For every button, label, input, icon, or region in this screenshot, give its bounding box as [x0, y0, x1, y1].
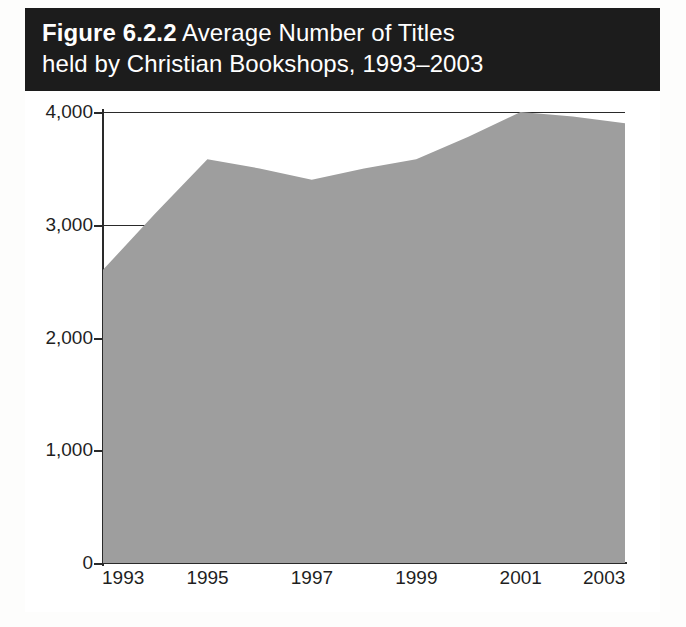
x-tick-label-2003: 2003: [583, 568, 625, 588]
figure-title-text: Average Number of Titles: [177, 19, 455, 46]
y-tick-label-4000: 4,000: [0, 102, 93, 121]
figure-title-line-1: Figure 6.2.2 Average Number of Titles: [42, 17, 660, 48]
x-tick-label-1993: 1993: [102, 568, 144, 588]
figure-container: Figure 6.2.2 Average Number of Titles he…: [0, 0, 686, 627]
x-tick-label-1997: 1997: [291, 568, 333, 588]
area-series-fill: [103, 112, 625, 563]
x-tick-label-1995: 1995: [186, 568, 228, 588]
area-chart-svg: [103, 112, 625, 563]
y-tick-label-2000: 2,000: [0, 328, 93, 347]
chart-panel: 01,0002,0003,0004,000 199319951997199920…: [25, 91, 660, 612]
figure-number-label: Figure 6.2.2: [42, 19, 177, 46]
chart-canvas: 01,0002,0003,0004,000 199319951997199920…: [25, 91, 660, 612]
y-tick-label-0: 0: [0, 553, 93, 572]
figure-title-banner: Figure 6.2.2 Average Number of Titles he…: [25, 8, 660, 91]
y-tick-label-3000: 3,000: [0, 215, 93, 234]
x-tick-label-2001: 2001: [500, 568, 542, 588]
y-tick-label-1000: 1,000: [0, 440, 93, 459]
plot-area: [103, 112, 625, 563]
figure-title-line-2: held by Christian Bookshops, 1993–2003: [42, 48, 660, 79]
x-tick-label-1999: 1999: [395, 568, 437, 588]
